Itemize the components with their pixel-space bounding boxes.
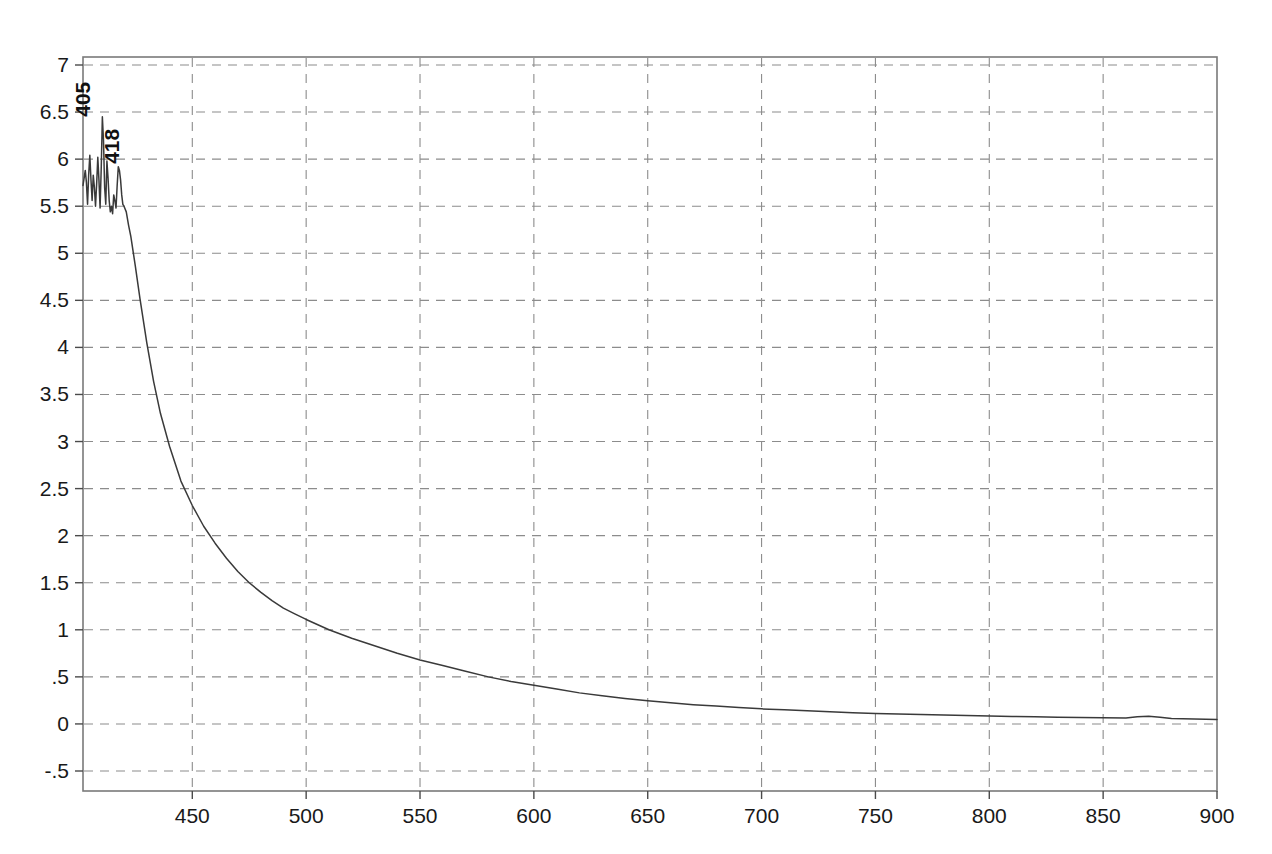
- x-tick-label: 600: [516, 804, 551, 827]
- y-tick-label: 5: [57, 241, 69, 264]
- y-tick-label: 2.5: [40, 477, 69, 500]
- x-tick-label: 450: [175, 804, 210, 827]
- y-tick-label: 3: [57, 430, 69, 453]
- y-tick-label: 4: [57, 335, 69, 358]
- y-tick-label: 0: [57, 712, 69, 735]
- chart-background: [0, 0, 1272, 854]
- y-tick-label: 3.5: [40, 382, 69, 405]
- x-tick-label: 550: [402, 804, 437, 827]
- y-tick-label: 4.5: [40, 288, 69, 311]
- x-tick-label: 500: [289, 804, 324, 827]
- peak-label-405: 405: [71, 81, 94, 116]
- x-tick-label: 700: [744, 804, 779, 827]
- y-tick-label: 1: [57, 618, 69, 641]
- x-tick-label: 750: [858, 804, 893, 827]
- x-tick-label: 650: [630, 804, 665, 827]
- y-tick-label: 1.5: [40, 571, 69, 594]
- y-tick-label: 7: [57, 53, 69, 76]
- x-tick-label: 800: [972, 804, 1007, 827]
- y-tick-label: -.5: [44, 759, 69, 782]
- peak-label-418: 418: [100, 128, 123, 163]
- y-tick-label: .5: [51, 665, 69, 688]
- x-tick-label: 850: [1086, 804, 1121, 827]
- y-tick-label: 5.5: [40, 194, 69, 217]
- spectrum-chart: 76.565.554.543.532.521.51.50-.5 45050055…: [0, 0, 1272, 854]
- y-tick-label: 6: [57, 147, 69, 170]
- spectrum-plot-svg: 76.565.554.543.532.521.51.50-.5 45050055…: [0, 0, 1272, 854]
- y-tick-label: 6.5: [40, 100, 69, 123]
- x-tick-label: 900: [1199, 804, 1234, 827]
- y-tick-label: 2: [57, 524, 69, 547]
